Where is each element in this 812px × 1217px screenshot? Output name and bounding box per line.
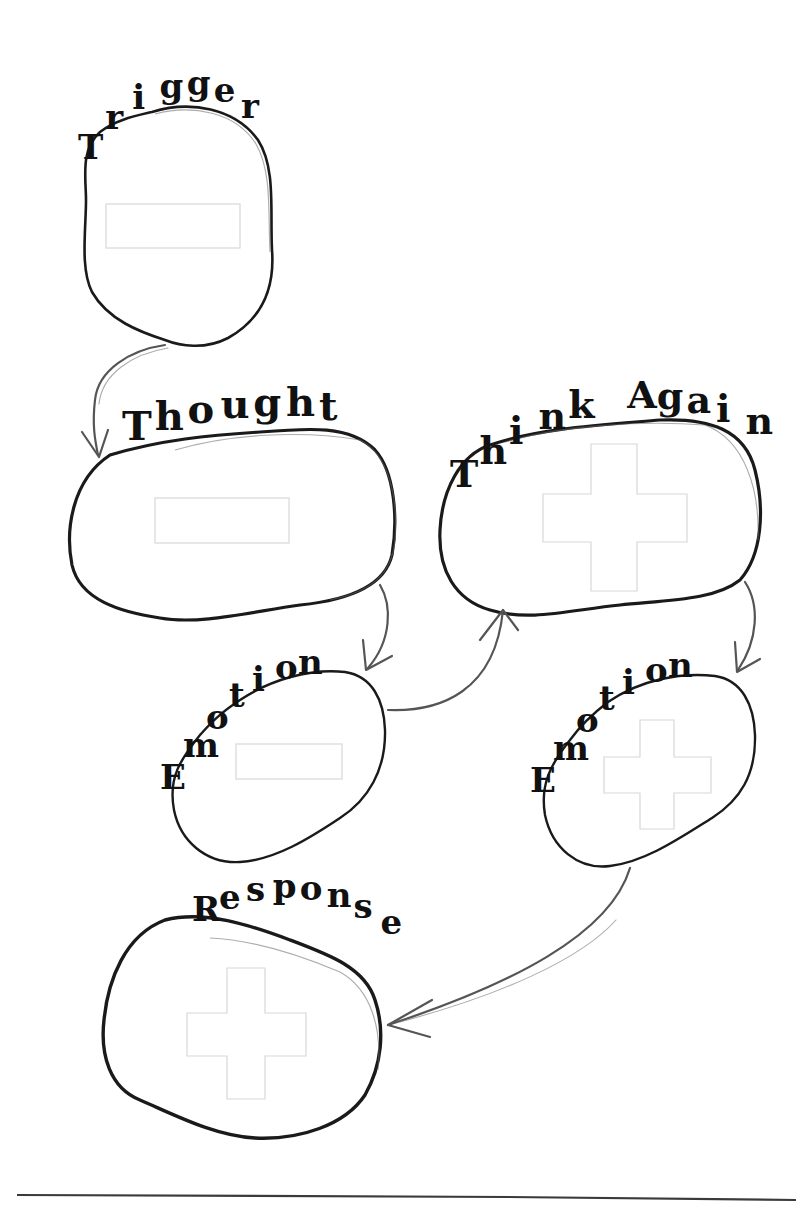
- footer-divider: [17, 1195, 508, 1197]
- arrow-emotion-left-to-think-again: [388, 610, 518, 710]
- node-emotion-right: Emotion: [530, 645, 755, 867]
- node-response: Response: [103, 866, 403, 1138]
- emotion-left-blob: [172, 671, 385, 862]
- response-blob: [103, 917, 381, 1138]
- node-emotion-left: Emotion: [160, 642, 385, 863]
- thought-blob: [70, 429, 395, 620]
- arrow-emotion-right-to-response: [388, 868, 630, 1037]
- node-thought: Thought: [70, 378, 396, 620]
- cbt-worksheet-diagram: Trigger Thought Think Again Emotion Emot…: [0, 0, 812, 1217]
- node-think-again: Think Again: [440, 372, 774, 615]
- footer-divider-right: [508, 1197, 796, 1200]
- arrow-thought-to-emotion-left: [363, 585, 392, 670]
- node-trigger: Trigger: [78, 63, 272, 345]
- trigger-blob: [85, 107, 273, 346]
- arrow-think-again-to-emotion-right: [735, 582, 760, 672]
